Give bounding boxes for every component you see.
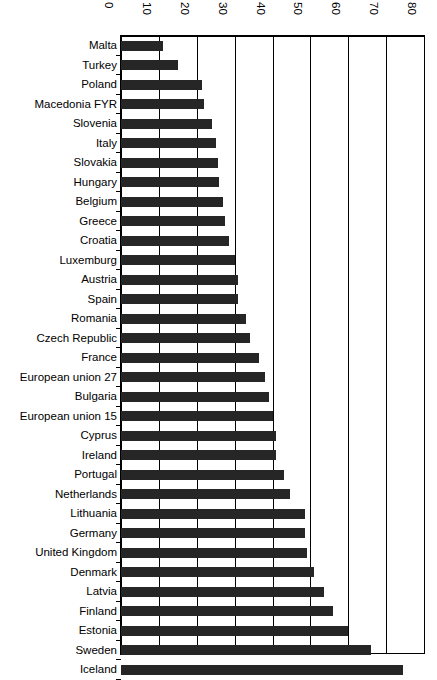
bar bbox=[121, 255, 235, 265]
category-label: Hungary bbox=[74, 173, 117, 193]
category-label: Belgium bbox=[75, 192, 117, 212]
x-tick-label-50: 50 bbox=[281, 2, 315, 36]
bar bbox=[121, 294, 238, 304]
bar-row bbox=[121, 641, 424, 661]
bar bbox=[121, 275, 238, 285]
category-label: Spain bbox=[88, 290, 117, 310]
bar-row bbox=[121, 485, 424, 505]
bar-row bbox=[121, 153, 424, 173]
category-label: Bulgaria bbox=[75, 387, 117, 407]
bar-row bbox=[121, 446, 424, 466]
bar-row bbox=[121, 524, 424, 544]
bar bbox=[121, 177, 219, 187]
category-label: Portugal bbox=[74, 465, 117, 485]
category-label: Finland bbox=[79, 602, 117, 622]
bar-row bbox=[121, 114, 424, 134]
category-label: Malta bbox=[89, 36, 117, 56]
category-label: Slovenia bbox=[73, 114, 117, 134]
category-label: Turkey bbox=[82, 56, 117, 76]
category-label: European union 15 bbox=[20, 407, 117, 427]
category-label: Latvia bbox=[86, 582, 117, 602]
category-label: Austria bbox=[81, 270, 117, 290]
bar bbox=[121, 509, 305, 519]
category-label: Sweden bbox=[75, 641, 117, 661]
bar bbox=[121, 431, 276, 441]
bar bbox=[121, 138, 216, 148]
bar bbox=[121, 353, 259, 363]
bar bbox=[121, 392, 269, 402]
bar bbox=[121, 450, 276, 460]
x-tick-label-40: 40 bbox=[244, 2, 278, 36]
bar bbox=[121, 197, 223, 207]
x-axis-tick-labels: 01020304050607080 bbox=[0, 0, 437, 36]
category-label: Romania bbox=[71, 309, 117, 329]
category-label: Luxemburg bbox=[59, 251, 117, 271]
bar bbox=[121, 567, 314, 577]
bar-row bbox=[121, 251, 424, 271]
bar-series bbox=[121, 36, 424, 654]
bar-row bbox=[121, 75, 424, 95]
bar-row bbox=[121, 56, 424, 76]
category-label: Denmark bbox=[70, 563, 117, 583]
category-label: Poland bbox=[81, 75, 117, 95]
bar bbox=[121, 99, 204, 109]
bar-row bbox=[121, 270, 424, 290]
bar bbox=[121, 645, 371, 655]
bar bbox=[121, 548, 307, 558]
figure-caption bbox=[4, 660, 434, 671]
bar-row bbox=[121, 231, 424, 251]
category-label: Germany bbox=[70, 524, 117, 544]
x-tick-label-20: 20 bbox=[168, 2, 202, 36]
bar bbox=[121, 606, 333, 616]
x-tick-label-80: 80 bbox=[395, 2, 429, 36]
category-label: Greece bbox=[79, 212, 117, 232]
x-tick-label-30: 30 bbox=[206, 2, 240, 36]
category-label: Estonia bbox=[79, 621, 117, 641]
bar-row bbox=[121, 192, 424, 212]
category-label: France bbox=[81, 348, 117, 368]
category-label: Cyprus bbox=[81, 426, 117, 446]
bar bbox=[121, 314, 246, 324]
bar bbox=[121, 470, 284, 480]
gridline-80 bbox=[424, 36, 425, 654]
bar-row bbox=[121, 348, 424, 368]
category-label: Czech Republic bbox=[36, 329, 117, 349]
bar bbox=[121, 80, 202, 90]
bar bbox=[121, 489, 290, 499]
bar-row bbox=[121, 309, 424, 329]
bar-row bbox=[121, 387, 424, 407]
x-tick-label-0: 0 bbox=[92, 2, 126, 36]
category-label: Slovakia bbox=[74, 153, 117, 173]
bar bbox=[121, 528, 305, 538]
bar bbox=[121, 411, 273, 421]
bar-row bbox=[121, 134, 424, 154]
bar bbox=[121, 119, 212, 129]
category-label: European union 27 bbox=[20, 368, 117, 388]
bar-row bbox=[121, 407, 424, 427]
bar-row bbox=[121, 426, 424, 446]
bar bbox=[121, 158, 218, 168]
bar-row bbox=[121, 212, 424, 232]
bar-row bbox=[121, 329, 424, 349]
category-label: Ireland bbox=[82, 446, 117, 466]
bar bbox=[121, 236, 229, 246]
bar bbox=[121, 216, 225, 226]
plot-area bbox=[121, 36, 424, 654]
bar bbox=[121, 333, 250, 343]
bar-row bbox=[121, 602, 424, 622]
category-label: Italy bbox=[96, 134, 117, 154]
bar bbox=[121, 626, 348, 636]
bar-row bbox=[121, 582, 424, 602]
category-label: Croatia bbox=[80, 231, 117, 251]
bar-row bbox=[121, 290, 424, 310]
bar-row bbox=[121, 504, 424, 524]
bar bbox=[121, 41, 163, 51]
bar-row bbox=[121, 563, 424, 583]
bar-row bbox=[121, 173, 424, 193]
category-label: Lithuania bbox=[70, 504, 117, 524]
x-tick-label-60: 60 bbox=[319, 2, 353, 36]
bar bbox=[121, 60, 178, 70]
x-tick-label-10: 10 bbox=[130, 2, 164, 36]
bar-row bbox=[121, 621, 424, 641]
